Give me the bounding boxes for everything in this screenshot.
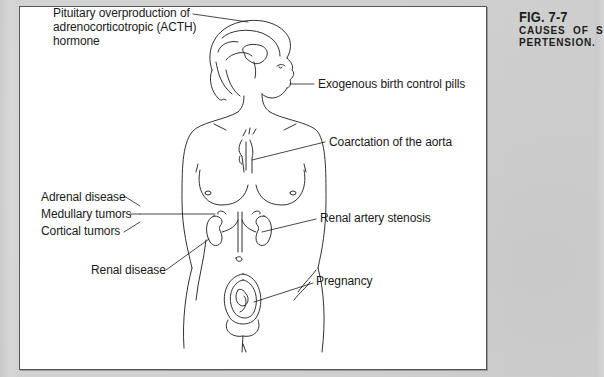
uterus-illustration	[224, 274, 261, 352]
label-pregnancy: Pregnancy	[316, 274, 372, 288]
figure-title-line-2: PERTENSION.	[519, 37, 604, 49]
label-pituitary: Pituitary overproduction of adrenocortic…	[53, 6, 196, 48]
kidneys-illustration	[207, 211, 272, 261]
label-adrenal: Adrenal disease Medullary tumors Cortica…	[41, 189, 131, 240]
leader-pituitary	[193, 14, 248, 22]
leader-renal-disease	[166, 239, 209, 270]
figure-caption: FIG. 7-7 CAUSES OF S PERTENSION.	[519, 10, 604, 49]
label-renal-artery: Renal artery stenosis	[320, 211, 431, 225]
figure-title-line-1: CAUSES OF S	[519, 25, 604, 37]
label-birth-control: Exogenous birth control pills	[318, 77, 465, 91]
leader-coarctation	[252, 142, 325, 160]
aorta-illustration	[239, 128, 256, 173]
label-renal-disease: Renal disease	[91, 263, 166, 277]
label-coarctation: Coarctation of the aorta	[329, 135, 452, 149]
leader-pregnancy	[254, 283, 313, 302]
leader-lines	[124, 14, 325, 302]
torso-illustration	[182, 112, 326, 352]
head-illustration	[210, 20, 294, 112]
figure-number: FIG. 7-7	[519, 10, 597, 25]
